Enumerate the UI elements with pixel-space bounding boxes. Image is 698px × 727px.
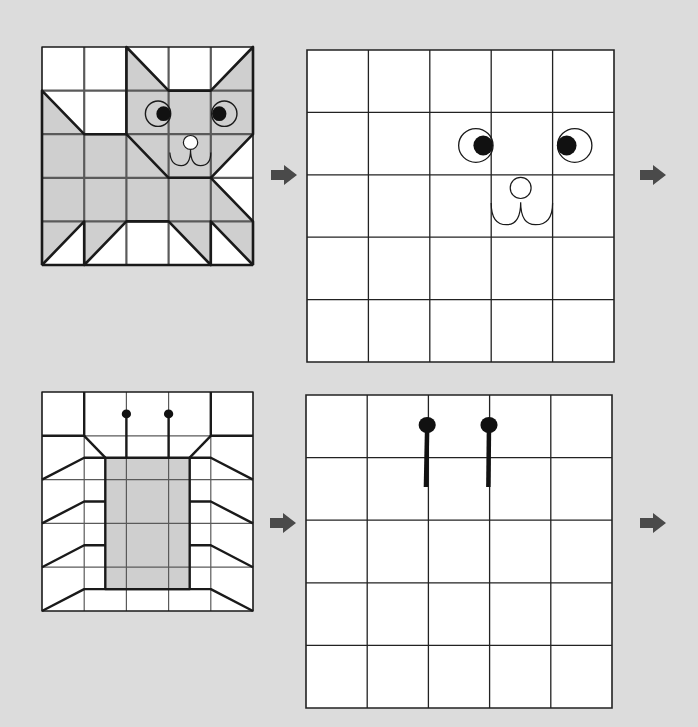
- arrow-right-icon: [640, 513, 666, 533]
- cat-right-pupil: [212, 106, 226, 121]
- bug-antenna-tip: [480, 417, 497, 433]
- cat-nose: [510, 177, 531, 198]
- cat-reference-grid: [42, 47, 253, 265]
- cat-nose: [183, 136, 197, 150]
- bug-reference-grid: [42, 392, 253, 611]
- cat-right-pupil: [557, 135, 577, 155]
- bug-drawing-grid: [306, 395, 612, 708]
- cat-left-pupil: [156, 106, 170, 121]
- arrow-right-icon: [640, 165, 666, 185]
- cat-drawing-grid: [307, 50, 614, 362]
- cat-left-pupil: [473, 135, 493, 155]
- bug-antenna-tip: [419, 417, 436, 433]
- bug-antenna-tip: [164, 410, 173, 419]
- arrow-right-icon: [270, 513, 296, 533]
- bug-antenna-tip: [122, 410, 131, 419]
- arrow-right-icon: [271, 165, 297, 185]
